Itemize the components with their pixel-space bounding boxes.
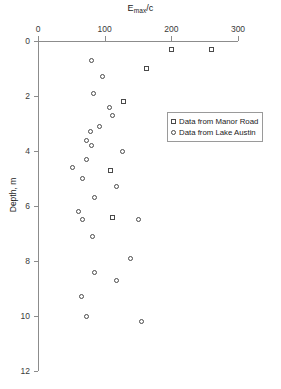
data-point (169, 47, 174, 52)
data-point (91, 91, 96, 96)
data-point (89, 143, 94, 148)
data-point (84, 138, 89, 143)
y-tick-label-4: 4 (6, 146, 30, 156)
legend-square-marker-icon (171, 119, 176, 124)
x-tick-label-0: 0 (18, 24, 58, 34)
data-point (92, 270, 97, 275)
legend-item-lake-austin: Data from Lake Austin (171, 127, 258, 138)
data-point (89, 58, 94, 63)
data-point (88, 129, 93, 134)
data-point (144, 66, 149, 71)
data-point (90, 234, 95, 239)
data-point (97, 124, 102, 129)
data-point (136, 217, 141, 222)
data-point (107, 105, 112, 110)
data-point (100, 74, 105, 79)
legend-circle-marker-icon (171, 130, 176, 135)
data-point (139, 319, 144, 324)
data-point (92, 195, 97, 200)
x-tick-300 (238, 36, 239, 41)
y-tick-label-8: 8 (6, 256, 30, 266)
data-point (120, 149, 125, 154)
data-point (128, 256, 133, 261)
data-point (80, 217, 85, 222)
y-tick-label-10: 10 (6, 311, 30, 321)
data-point (114, 278, 119, 283)
y-axis-title: Depth, m (8, 160, 18, 230)
data-point (84, 157, 89, 162)
y-tick-12 (34, 371, 38, 372)
legend-item-manor-road: Data from Manor Road (171, 116, 258, 127)
legend-label-manor-road: Data from Manor Road (179, 116, 258, 127)
y-tick-label-6: 6 (6, 201, 30, 211)
data-point (110, 113, 115, 118)
y-tick-label-0: 0 (6, 36, 30, 46)
data-point (209, 47, 214, 52)
legend-label-lake-austin: Data from Lake Austin (179, 127, 256, 138)
x-axis-title: Emax/c (0, 3, 281, 14)
scatter-chart-figure: Emax/c Depth, m 0100200300 024681012 Dat… (0, 0, 281, 389)
x-tick-label-300: 300 (218, 24, 258, 34)
x-axis-title-subscript: max (134, 7, 147, 14)
x-tick-label-100: 100 (85, 24, 125, 34)
data-point (80, 176, 85, 181)
data-point (110, 215, 115, 220)
data-point (121, 99, 126, 104)
data-point (76, 209, 81, 214)
y-tick-label-2: 2 (6, 91, 30, 101)
data-point (84, 314, 89, 319)
chart-legend: Data from Manor Road Data from Lake Aust… (167, 112, 263, 142)
data-point (108, 168, 113, 173)
x-tick-label-200: 200 (151, 24, 191, 34)
y-tick-label-12: 12 (6, 366, 30, 376)
x-axis-title-tail: /c (146, 3, 153, 13)
